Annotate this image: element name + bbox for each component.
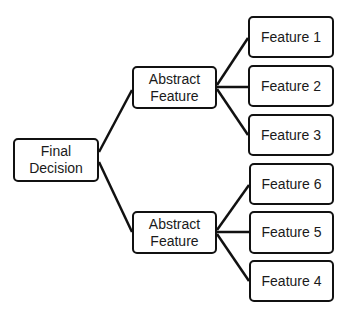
node-feature-4: Feature 4 — [249, 260, 334, 302]
edge-abs1-f1 — [217, 38, 248, 85]
edge-abs2-f6 — [217, 185, 249, 230]
node-feature-6: Feature 6 — [249, 163, 334, 205]
node-feature-1: Feature 1 — [248, 16, 334, 58]
node-abstract-feature-bottom: Abstract Feature — [132, 211, 217, 254]
edge-abs1-f3 — [217, 89, 248, 135]
node-feature-2: Feature 2 — [248, 65, 334, 107]
node-final-decision: Final Decision — [13, 138, 99, 182]
node-feature-5: Feature 5 — [249, 211, 334, 254]
decision-tree-diagram: Final Decision Abstract Feature Abstract… — [0, 0, 347, 317]
edge-final-abs2 — [99, 162, 132, 232]
edge-final-abs1 — [99, 90, 132, 152]
node-abstract-feature-top: Abstract Feature — [132, 66, 217, 109]
edge-abs2-f4 — [217, 234, 249, 281]
node-feature-3: Feature 3 — [248, 114, 334, 156]
